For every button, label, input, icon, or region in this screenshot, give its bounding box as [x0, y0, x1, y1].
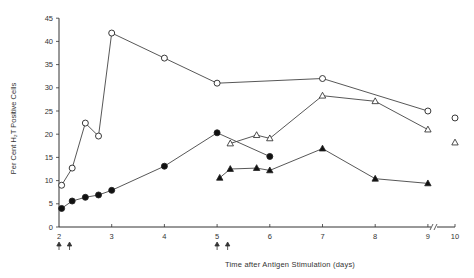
- y-tick-label: 5: [49, 199, 53, 208]
- y-tick-label: 25: [45, 107, 53, 116]
- x-tick-label: 4: [162, 232, 166, 241]
- filled-circle-marker-icon: [82, 194, 88, 200]
- series-line-filled-triangles: [220, 149, 428, 184]
- filled-circle-marker-icon: [267, 153, 273, 159]
- open-circle-marker-icon: [69, 165, 75, 171]
- filled-triangle-marker-icon: [372, 175, 378, 181]
- y-tick-label: 40: [45, 37, 53, 46]
- open-circle-marker-icon: [96, 133, 102, 139]
- filled-circle-marker-icon: [59, 205, 65, 211]
- y-tick-label: 10: [45, 176, 53, 185]
- line-chart: 0510152025303540452345678910: [0, 0, 474, 278]
- arrow-up-icon: [225, 242, 229, 250]
- y-tick-label: 15: [45, 153, 53, 162]
- filled-circle-marker-icon: [109, 187, 115, 193]
- y-tick-label: 30: [45, 83, 53, 92]
- arrow-up-icon: [67, 242, 71, 250]
- open-circle-marker-icon: [452, 115, 458, 121]
- open-circle-marker-icon: [425, 108, 431, 114]
- open-circle-marker-icon: [109, 30, 115, 36]
- open-triangle-marker-icon: [452, 139, 458, 145]
- x-tick-label: 6: [268, 232, 272, 241]
- filled-triangle-marker-icon: [319, 145, 325, 151]
- series-line-filled-circles: [62, 133, 270, 209]
- open-triangle-marker-icon: [425, 126, 431, 132]
- x-tick-label: 10: [451, 232, 459, 241]
- y-tick-label: 20: [45, 130, 53, 139]
- x-tick-label: 5: [215, 232, 219, 241]
- open-circle-marker-icon: [161, 55, 167, 61]
- open-triangle-marker-icon: [319, 92, 325, 98]
- arrow-up-icon: [215, 242, 219, 250]
- open-circle-marker-icon: [82, 120, 88, 126]
- filled-triangle-marker-icon: [253, 165, 259, 171]
- filled-circle-marker-icon: [161, 163, 167, 169]
- series-line-open-triangles: [230, 96, 428, 144]
- filled-triangle-marker-icon: [217, 174, 223, 180]
- y-axis-label: Per Cent H₂T Positive Cells: [9, 64, 18, 194]
- x-tick-label: 3: [110, 232, 114, 241]
- x-tick-label: 9: [426, 232, 430, 241]
- x-axis-label: Time after Antigen Stimulation (days): [180, 260, 400, 269]
- x-tick-label: 8: [373, 232, 377, 241]
- series-line-open-circles: [62, 33, 428, 185]
- open-triangle-marker-icon: [253, 132, 259, 138]
- open-circle-marker-icon: [214, 80, 220, 86]
- arrow-up-icon: [57, 242, 61, 250]
- open-circle-marker-icon: [59, 182, 65, 188]
- y-tick-label: 45: [45, 14, 53, 23]
- filled-circle-marker-icon: [96, 192, 102, 198]
- filled-circle-marker-icon: [69, 198, 75, 204]
- y-tick-label: 0: [49, 223, 53, 232]
- axis-break-icon: [430, 224, 437, 230]
- filled-circle-marker-icon: [214, 130, 220, 136]
- open-circle-marker-icon: [320, 76, 326, 82]
- x-tick-label: 2: [57, 232, 61, 241]
- y-tick-label: 35: [45, 60, 53, 69]
- x-tick-label: 7: [320, 232, 324, 241]
